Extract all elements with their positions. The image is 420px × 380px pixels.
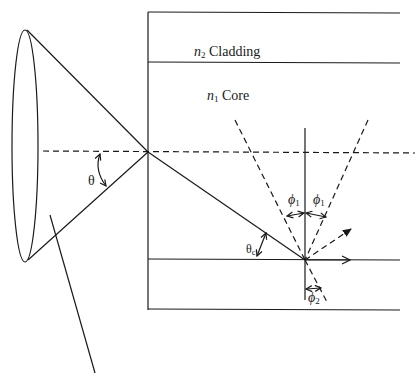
reflected-ray-extension-right <box>305 120 368 260</box>
guided-ray <box>148 152 305 260</box>
fiber-structure <box>148 12 400 310</box>
critical-angle-label: θc <box>246 242 256 257</box>
core-cladding-boundary-bottom <box>148 259 400 260</box>
light-cone-base-ellipse <box>12 30 38 262</box>
phi1-right-subscript: 1 <box>320 198 325 208</box>
fiber-bottom-edge <box>148 309 400 310</box>
cladding-text: Cladding <box>209 44 260 59</box>
phi2-angle-arrow <box>306 288 321 289</box>
partial-reflection-arrow <box>305 229 351 260</box>
phi1-right-label: ϕ1 <box>313 192 325 208</box>
fiber-top-edge <box>148 12 400 13</box>
acceptance-angle-arc <box>98 154 106 186</box>
core-label: n1 Core <box>207 88 249 104</box>
phi2-label: ϕ2 <box>308 290 320 306</box>
core-index-symbol: n <box>207 88 214 103</box>
optical-axis <box>43 151 415 153</box>
acceptance-cone-upper-ray <box>27 30 148 152</box>
cladding-label: n2 Cladding <box>194 44 260 60</box>
phi1-left-subscript: 1 <box>295 198 300 208</box>
acceptance-angle-label: θ <box>88 173 95 189</box>
theta-c-subscript: c <box>252 247 256 257</box>
phi1-right-angle-arrow <box>306 213 326 217</box>
cladding-index-symbol: n <box>194 44 201 59</box>
phi1-left-label: ϕ1 <box>288 192 300 208</box>
pointer-line <box>50 215 95 373</box>
theta-symbol: θ <box>88 173 95 188</box>
core-index-subscript: 1 <box>214 94 219 104</box>
incident-ray-extension-left <box>235 120 305 260</box>
phi2-subscript: 2 <box>315 296 320 306</box>
acceptance-cone-lower-ray <box>28 152 148 260</box>
critical-angle-arrow <box>257 233 266 256</box>
core-text: Core <box>222 88 249 103</box>
cladding-core-boundary-top <box>148 62 400 63</box>
phi1-left-angle-arrow <box>287 213 304 216</box>
cladding-index-subscript: 2 <box>201 50 206 60</box>
